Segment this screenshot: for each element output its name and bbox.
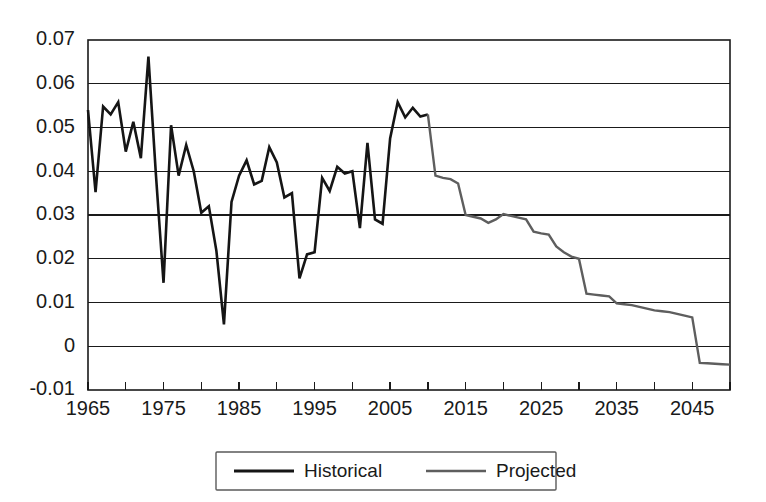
y-axis-tick-label: 0.06 xyxy=(36,71,75,93)
x-axis-tick-label: 2045 xyxy=(670,397,715,419)
x-tickmarks-group xyxy=(88,382,730,390)
y-axis-tick-label: 0.02 xyxy=(36,246,75,268)
y-axis-tick-label: -0.01 xyxy=(29,377,75,399)
y-axis-tick-label: 0.01 xyxy=(36,290,75,312)
y-axis-tick-label: 0.03 xyxy=(36,202,75,224)
x-axis-tick-label: 2015 xyxy=(443,397,488,419)
x-axis-tick-label: 1995 xyxy=(292,397,337,419)
line-chart: -0.0100.010.020.030.040.050.060.07 19651… xyxy=(0,0,766,502)
data-series-group xyxy=(88,57,730,365)
y-axis-tick-label: 0.07 xyxy=(36,27,75,49)
y-axis-tick-label: 0.05 xyxy=(36,115,75,137)
x-axis-tick-label: 2035 xyxy=(594,397,639,419)
y-axis-tick-label: 0 xyxy=(64,334,75,356)
x-axis-tick-label: 1975 xyxy=(141,397,186,419)
y-axis-tick-label: 0.04 xyxy=(36,159,75,181)
x-axis-tick-label: 2025 xyxy=(519,397,564,419)
legend-label: Historical xyxy=(304,460,382,481)
y-axis-labels: -0.0100.010.020.030.040.050.060.07 xyxy=(29,27,75,399)
x-axis-tick-label: 2005 xyxy=(368,397,413,419)
legend-label: Projected xyxy=(496,460,576,481)
series-line-historical xyxy=(88,57,428,325)
gridlines-group xyxy=(88,84,730,347)
x-axis-labels: 196519751985199520052015202520352045 xyxy=(66,397,715,419)
series-line-projected xyxy=(428,114,730,364)
x-axis-tick-label: 1985 xyxy=(217,397,262,419)
chart-legend: HistoricalProjected xyxy=(216,452,576,490)
chart-container: -0.0100.010.020.030.040.050.060.07 19651… xyxy=(0,0,766,502)
x-axis-tick-label: 1965 xyxy=(66,397,111,419)
